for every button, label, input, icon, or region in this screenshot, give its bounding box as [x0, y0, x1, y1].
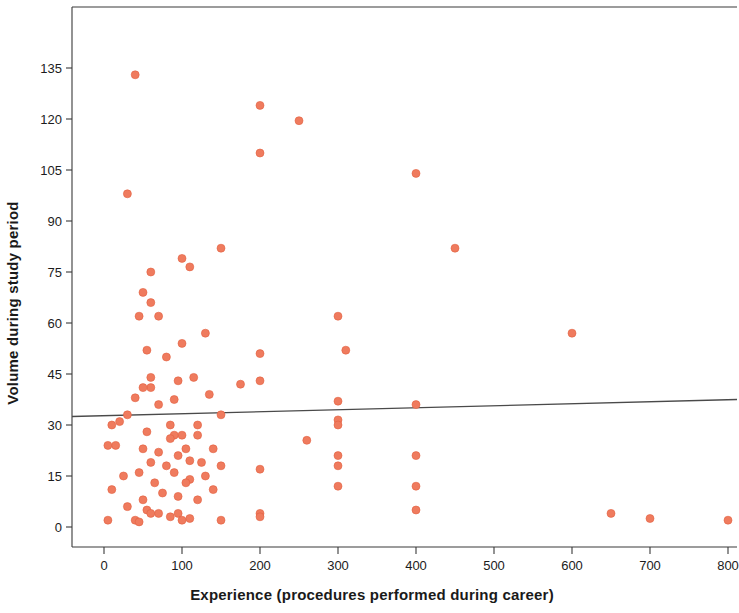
data-point — [295, 117, 303, 125]
data-point — [217, 462, 225, 470]
data-point — [135, 518, 143, 526]
data-point — [155, 401, 163, 409]
data-point — [178, 431, 186, 439]
y-tick-label: 0 — [20, 520, 62, 535]
data-point — [412, 506, 420, 514]
data-point — [135, 469, 143, 477]
data-point — [334, 312, 342, 320]
data-point — [646, 515, 654, 523]
data-point — [217, 244, 225, 252]
data-point — [237, 380, 245, 388]
y-tick-label: 15 — [20, 469, 62, 484]
data-point — [112, 441, 120, 449]
plot-frame — [72, 7, 737, 547]
data-point — [120, 472, 128, 480]
data-point — [194, 496, 202, 504]
data-point — [139, 496, 147, 504]
data-point — [178, 339, 186, 347]
data-point — [155, 509, 163, 517]
data-point — [412, 482, 420, 490]
data-point — [334, 421, 342, 429]
data-point — [256, 149, 264, 157]
data-point — [412, 401, 420, 409]
data-point — [451, 244, 459, 252]
data-point — [162, 353, 170, 361]
data-point — [194, 421, 202, 429]
data-point — [139, 384, 147, 392]
data-point — [170, 396, 178, 404]
data-point — [217, 516, 225, 524]
data-point — [303, 436, 311, 444]
data-point — [194, 431, 202, 439]
data-point — [198, 458, 206, 466]
x-tick-label: 800 — [717, 558, 739, 573]
y-tick-label: 135 — [20, 61, 62, 76]
data-point — [178, 516, 186, 524]
data-point — [123, 411, 131, 419]
x-tick-label: 400 — [405, 558, 427, 573]
x-tick-label: 600 — [561, 558, 583, 573]
y-tick-label: 105 — [20, 163, 62, 178]
x-axis-ticks — [104, 547, 728, 554]
data-point — [147, 509, 155, 517]
data-point — [139, 445, 147, 453]
data-point — [209, 445, 217, 453]
y-tick-label: 30 — [20, 418, 62, 433]
data-point — [186, 263, 194, 271]
data-point — [166, 435, 174, 443]
data-point — [139, 288, 147, 296]
data-point — [104, 441, 112, 449]
data-point — [217, 411, 225, 419]
y-axis-ticks — [66, 68, 72, 527]
data-point — [155, 312, 163, 320]
data-point — [131, 394, 139, 402]
data-point — [174, 452, 182, 460]
data-point — [256, 377, 264, 385]
data-point — [412, 169, 420, 177]
data-point — [135, 312, 143, 320]
x-tick-label: 200 — [249, 558, 271, 573]
data-point — [162, 462, 170, 470]
data-point — [724, 516, 732, 524]
data-point — [190, 373, 198, 381]
data-point — [209, 486, 217, 494]
y-tick-label: 120 — [20, 112, 62, 127]
data-point — [147, 373, 155, 381]
data-point — [151, 479, 159, 487]
data-point — [143, 428, 151, 436]
scatter-points — [104, 71, 732, 526]
data-point — [256, 465, 264, 473]
data-point — [334, 452, 342, 460]
y-tick-label: 75 — [20, 265, 62, 280]
data-point — [607, 509, 615, 517]
x-tick-label: 100 — [171, 558, 193, 573]
x-tick-label: 0 — [100, 558, 107, 573]
data-point — [147, 458, 155, 466]
data-point — [186, 515, 194, 523]
y-tick-label: 45 — [20, 367, 62, 382]
y-tick-label: 90 — [20, 214, 62, 229]
data-point — [201, 329, 209, 337]
data-point — [123, 190, 131, 198]
data-point — [170, 469, 178, 477]
data-point — [205, 390, 213, 398]
x-tick-label: 700 — [639, 558, 661, 573]
data-point — [256, 350, 264, 358]
data-point — [334, 482, 342, 490]
data-point — [174, 492, 182, 500]
data-point — [412, 452, 420, 460]
data-point — [182, 445, 190, 453]
x-axis-title: Experience (procedures performed during … — [72, 586, 672, 603]
data-point — [108, 421, 116, 429]
data-point — [116, 418, 124, 426]
data-point — [568, 329, 576, 337]
data-point — [147, 299, 155, 307]
data-point — [342, 346, 350, 354]
data-point — [155, 448, 163, 456]
x-tick-label: 500 — [483, 558, 505, 573]
data-point — [104, 516, 112, 524]
data-point — [123, 503, 131, 511]
data-point — [143, 346, 151, 354]
